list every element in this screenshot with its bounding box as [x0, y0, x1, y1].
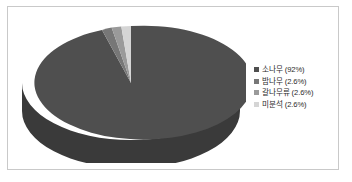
- legend-item-bamnamu[interactable]: 밤나무 (2.6%): [254, 76, 340, 88]
- legend-item-sonamu[interactable]: 소나무 (92%): [254, 64, 340, 76]
- legend-label-bamnamu: 밤나무 (2.6%): [262, 76, 306, 88]
- legend-swatch-bamnamu: [254, 79, 259, 84]
- legend-swatch-mibunseok: [254, 102, 259, 107]
- chart-frame: 소나무 (92%) 밤나무 (2.6%) 갈나무류 (2.6%) 미분석 (2.…: [7, 6, 339, 170]
- legend-label-mibunseok: 미분석 (2.6%): [262, 99, 306, 111]
- pie-slice-sonamu: [34, 26, 246, 140]
- chart-legend: 소나무 (92%) 밤나무 (2.6%) 갈나무류 (2.6%) 미분석 (2.…: [254, 64, 340, 110]
- pie-slices: [34, 26, 246, 140]
- pie-chart-3d: [16, 11, 246, 163]
- legend-item-galnamuryu[interactable]: 갈나무류 (2.6%): [254, 87, 340, 99]
- legend-swatch-galnamuryu: [254, 90, 259, 95]
- legend-label-galnamuryu: 갈나무류 (2.6%): [262, 87, 313, 99]
- legend-swatch-sonamu: [254, 67, 259, 72]
- legend-label-sonamu: 소나무 (92%): [262, 64, 304, 76]
- pie-chart-plot-area: [8, 7, 248, 169]
- legend-item-mibunseok[interactable]: 미분석 (2.6%): [254, 99, 340, 111]
